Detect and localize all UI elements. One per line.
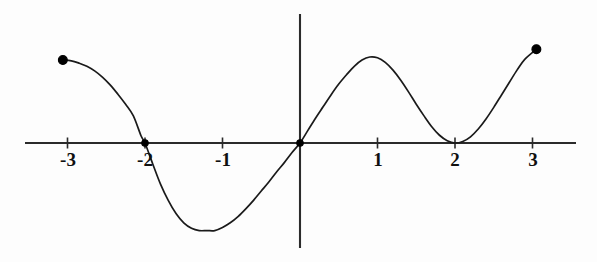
plot-canvas (0, 0, 597, 262)
x-tick-label-3: 3 (528, 150, 538, 169)
point-right-endpoint (532, 45, 541, 54)
axes-group (25, 14, 576, 248)
x-tick-label-1: 1 (373, 150, 383, 169)
x-tick-label-minus-3: -3 (60, 150, 76, 169)
point-origin-root (297, 140, 303, 146)
point-left-endpoint (58, 56, 67, 65)
x-tick-label-minus-2: -2 (137, 150, 153, 169)
point-root-at-minus-two (142, 140, 148, 146)
function-graph-figure: -3 -2 -1 1 2 3 (0, 0, 597, 262)
x-tick-label-2: 2 (450, 150, 460, 169)
x-tick-label-minus-1: -1 (215, 150, 231, 169)
